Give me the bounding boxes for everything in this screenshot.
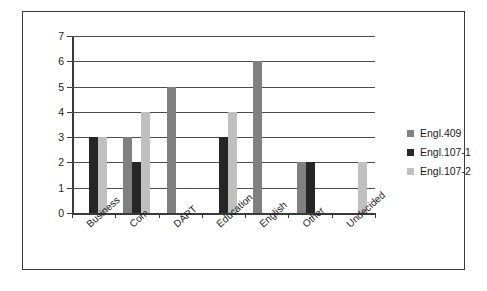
y-axis-tick-label: 3 <box>58 132 64 143</box>
chart-frame: 01234567 BusinessComDARTEducationEnglish… <box>22 11 465 270</box>
bar-group <box>72 36 115 213</box>
legend-swatch-icon <box>407 130 414 137</box>
legend-swatch-icon <box>407 168 414 175</box>
x-axis-tick <box>375 213 376 218</box>
chart-legend: Engl.409Engl.107-1Engl.107-2 <box>407 124 471 181</box>
y-axis-tick-label: 5 <box>58 81 64 92</box>
x-axis-tick <box>332 213 333 218</box>
bar[interactable] <box>89 137 98 213</box>
y-axis-tick-label: 6 <box>58 56 64 67</box>
y-axis-tick-label: 1 <box>58 182 64 193</box>
y-axis-tick-label: 7 <box>58 31 64 42</box>
bar-group <box>332 36 375 213</box>
x-axis-tick <box>159 213 160 218</box>
legend-swatch-icon <box>407 149 414 156</box>
screenshot-root: 01234567 BusinessComDARTEducationEnglish… <box>0 0 487 291</box>
x-axis-tick <box>245 213 246 218</box>
x-axis-tick <box>115 213 116 218</box>
plot-inner: 01234567 <box>72 36 375 213</box>
legend-item[interactable]: Engl.107-2 <box>407 162 471 181</box>
legend-label: Engl.409 <box>420 128 461 139</box>
legend-item[interactable]: Engl.409 <box>407 124 471 143</box>
bar-group <box>245 36 288 213</box>
bar[interactable] <box>132 162 141 213</box>
bar[interactable] <box>167 87 176 213</box>
legend-label: Engl.107-1 <box>420 147 471 158</box>
bar[interactable] <box>141 112 150 213</box>
x-axis-tick <box>72 213 73 218</box>
bar[interactable] <box>123 137 132 213</box>
x-axis-tick <box>288 213 289 218</box>
plot-area: 01234567 BusinessComDARTEducationEnglish… <box>72 36 375 213</box>
bar-group <box>202 36 245 213</box>
y-axis-tick-label: 4 <box>58 107 64 118</box>
bar-group <box>115 36 158 213</box>
bar[interactable] <box>297 162 306 213</box>
bar-group <box>288 36 331 213</box>
bar[interactable] <box>306 162 315 213</box>
x-axis-tick <box>202 213 203 218</box>
bar[interactable] <box>228 112 237 213</box>
bar-group <box>159 36 202 213</box>
y-axis-tick-label: 2 <box>58 157 64 168</box>
legend-item[interactable]: Engl.107-1 <box>407 143 471 162</box>
y-axis-tick-label: 0 <box>58 208 64 219</box>
bar[interactable] <box>253 61 262 213</box>
legend-label: Engl.107-2 <box>420 166 471 177</box>
bar[interactable] <box>219 137 228 213</box>
